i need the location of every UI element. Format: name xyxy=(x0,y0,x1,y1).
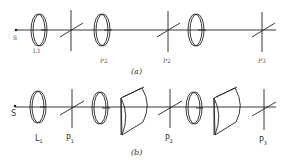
label-p2-b: P2 xyxy=(165,134,173,144)
prism-icon xyxy=(214,87,240,135)
panel-b: S L1 P1 P2 xyxy=(11,87,276,157)
prism-icon xyxy=(121,87,147,135)
lens-icon xyxy=(92,92,110,124)
lens-icon xyxy=(186,92,203,124)
panel-a: S L1 P2 P2 xyxy=(13,10,276,76)
label-p1-b: P1 xyxy=(66,134,74,144)
label-source-b: S xyxy=(11,109,16,118)
label-p2-a: P2 xyxy=(163,57,171,64)
label-p3-a: P3 xyxy=(258,57,266,64)
label-p1-a: P2 xyxy=(100,57,108,64)
polarizer-icon xyxy=(252,89,276,130)
polarizer-icon xyxy=(158,89,182,128)
optical-diagram: S L1 P2 P2 xyxy=(0,0,288,162)
label-p3-b: P3 xyxy=(259,136,267,146)
caption-b: (b) xyxy=(131,148,142,157)
polarizer-icon xyxy=(157,11,180,52)
polarizer-icon xyxy=(60,89,84,128)
source-point-icon xyxy=(14,105,17,108)
caption-a: (a) xyxy=(131,67,142,76)
label-source-a: S xyxy=(13,34,17,41)
label-lens1-a: L1 xyxy=(33,47,41,54)
label-lens1-b: L1 xyxy=(35,134,43,144)
source-point-icon xyxy=(15,29,18,32)
polarizer-icon xyxy=(252,12,275,52)
polarizer-icon xyxy=(60,10,83,51)
